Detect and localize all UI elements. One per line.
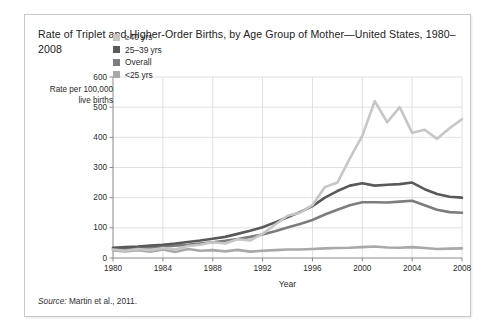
x-tick-label: 1988: [196, 264, 230, 273]
y-tick-label: 400: [81, 133, 107, 142]
x-tick-label: 1996: [295, 264, 329, 273]
y-tick-label: 600: [81, 73, 107, 82]
y-tick-label: 0: [81, 254, 107, 263]
x-tick-label: 2008: [445, 264, 479, 273]
x-axis-title: Year: [258, 279, 318, 289]
legend-swatch-icon: [113, 59, 120, 66]
x-tick-label: 2000: [345, 264, 379, 273]
y-tick-label: 300: [81, 163, 107, 172]
legend-swatch-icon: [113, 71, 120, 78]
legend-swatch-icon: [113, 46, 120, 53]
source-value: Martin et al., 2011.: [67, 296, 137, 306]
x-tick-label: 1980: [96, 264, 130, 273]
y-tick-label: 200: [81, 193, 107, 202]
y-tick-label: 100: [81, 223, 107, 232]
x-tick-label: 1984: [146, 264, 180, 273]
legend-item: 25–39 yrs: [113, 44, 162, 57]
y-tick-label: 500: [81, 103, 107, 112]
legend-item: <25 yrs: [113, 69, 162, 82]
legend-item-label: 25–39 yrs: [125, 45, 162, 55]
x-tick-label: 1992: [246, 264, 280, 273]
source-note: Source: Martin et al., 2011.: [38, 296, 137, 306]
series-line-overall: [113, 201, 462, 249]
legend-item-label: Overall: [125, 57, 152, 67]
figure-card: Rate of Triplet and Higher-Order Births,…: [24, 14, 471, 317]
chart-legend: ≥40 yrs25–39 yrsOverall<25 yrs: [113, 31, 162, 81]
legend-item: ≥40 yrs: [113, 31, 162, 44]
x-tick-label: 2004: [395, 264, 429, 273]
legend-item-label: ≥40 yrs: [125, 32, 152, 42]
legend-item: Overall: [113, 56, 162, 69]
legend-item-label: <25 yrs: [125, 70, 153, 80]
source-label: Source:: [38, 296, 67, 306]
legend-swatch-icon: [113, 34, 120, 41]
